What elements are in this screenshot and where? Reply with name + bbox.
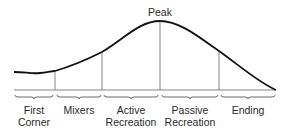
phase-label-line1: Mixers: [64, 104, 95, 116]
brace-passive: [162, 95, 218, 99]
phase-braces: [15, 95, 275, 99]
phase-label-ending: Ending: [232, 104, 265, 116]
phase-label-line1: Passive: [165, 104, 216, 116]
brace-mixers: [57, 95, 101, 99]
activity-curve: [14, 21, 276, 90]
phase-label-line1: First: [18, 104, 50, 116]
peak-label: Peak: [148, 6, 172, 18]
phase-label-line2: Corner: [18, 116, 50, 128]
phase-label-line2: Recreation: [165, 116, 216, 128]
phase-label-passive-recreation: Passive Recreation: [165, 104, 216, 128]
phase-label-mixers: Mixers: [64, 104, 95, 116]
phase-label-line1: Active: [106, 104, 157, 116]
phase-label-line1: Ending: [232, 104, 265, 116]
brace-ending: [221, 95, 275, 99]
phase-label-active-recreation: Active Recreation: [106, 104, 157, 128]
phase-label-line2: Recreation: [106, 116, 157, 128]
brace-active: [104, 95, 158, 99]
brace-first-corner: [15, 95, 53, 99]
phase-label-first-corner: First Corner: [18, 104, 50, 128]
